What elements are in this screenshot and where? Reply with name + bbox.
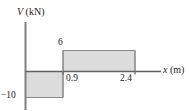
x-axis-title: x (m) <box>163 65 184 75</box>
plot-area: V (kN) x (m) 6 0.9 2.4 −10 <box>0 0 189 111</box>
x-tick-label-0-9: 0.9 <box>66 74 78 84</box>
shear-block-positive <box>63 51 135 72</box>
x-tick-label-2-4: 2.4 <box>120 74 132 84</box>
y-axis-title: V (kN) <box>17 7 45 17</box>
shear-block-negative <box>26 72 64 98</box>
value-label-negative: −10 <box>1 91 16 101</box>
value-label-positive: 6 <box>58 38 63 48</box>
y-axis-unit: (kN) <box>23 6 44 17</box>
x-axis-unit: (m) <box>167 64 184 75</box>
shear-force-diagram-figure: V (kN) x (m) 6 0.9 2.4 −10 <box>0 0 189 111</box>
